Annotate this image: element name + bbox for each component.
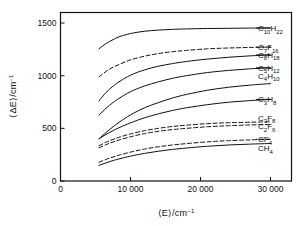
y-tick-label: 500 bbox=[42, 123, 56, 133]
label-subscript-2: 22 bbox=[276, 29, 283, 35]
y-tick-label: 1500 bbox=[38, 18, 57, 28]
label-subscript-2: 18 bbox=[273, 55, 280, 61]
y-tick-label: 1000 bbox=[38, 71, 57, 81]
label-subscript-2: 10 bbox=[273, 76, 280, 82]
y-axis-title-lead: ⟨ΔE⟩/cm bbox=[8, 82, 18, 118]
x-axis-title-exponent: −1 bbox=[187, 208, 195, 214]
x-tick-label: 10 000 bbox=[118, 184, 144, 194]
label-subscript-2: 12 bbox=[273, 68, 280, 74]
y-axis-title-exponent: −1 bbox=[8, 74, 14, 82]
x-tick-label: 30 000 bbox=[258, 184, 284, 194]
x-tick-label: 0 bbox=[58, 184, 63, 194]
chart-figure: 010 00020 00030 000 050010001500 C10H22C… bbox=[0, 0, 308, 226]
y-tick-label: 0 bbox=[52, 176, 57, 186]
label-subscript-2: 16 bbox=[272, 48, 279, 54]
x-axis-title-lead: ⟨E⟩/cm bbox=[158, 208, 188, 218]
x-tick-label: 20 000 bbox=[188, 184, 214, 194]
